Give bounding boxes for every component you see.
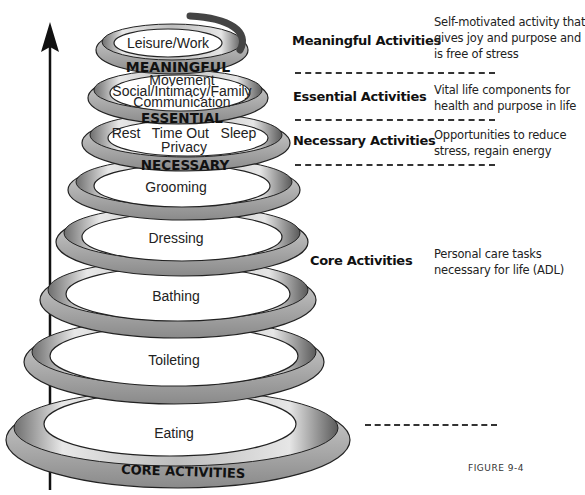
- legend-title-necessary: Necessary Activities: [293, 133, 435, 148]
- legend-desc-line: health and purpose in life: [434, 98, 576, 114]
- ring-label-eating: Eating: [154, 425, 194, 441]
- legend-title-essential: Essential Activities: [293, 89, 426, 104]
- ring-label-leisure-work: Leisure/Work: [127, 35, 210, 51]
- divider-dashes: [295, 164, 495, 166]
- legend-desc-line: is free of stress: [434, 46, 585, 62]
- legend-desc-necessary: Opportunities to reduce stress, regain e…: [434, 127, 566, 159]
- band-label-meaningful: MEANINGFUL: [126, 59, 230, 75]
- legend-desc-line: Opportunities to reduce: [434, 127, 566, 143]
- legend-title-core: Core Activities: [310, 253, 412, 268]
- ring-label-dressing: Dressing: [148, 230, 203, 246]
- band-label-essential: ESSENTIAL: [141, 110, 223, 126]
- divider-dashes: [365, 424, 497, 426]
- ring-label-privacy: Privacy: [161, 139, 207, 155]
- band-label-necessary: NECESSARY: [141, 157, 230, 173]
- legend-desc-line: gives joy and purpose and: [434, 30, 585, 46]
- legend-desc-core: Personal care tasks necessary for life (…: [434, 246, 564, 278]
- legend-title-meaningful: Meaningful Activities: [292, 33, 441, 48]
- ring-label-toileting: Toileting: [148, 352, 199, 368]
- ring-label-communication: Communication: [133, 94, 230, 110]
- ring-label-grooming: Grooming: [145, 179, 206, 195]
- ring-label-bathing: Bathing: [152, 288, 199, 304]
- divider-dashes: [295, 72, 495, 74]
- legend-desc-line: Personal care tasks: [434, 246, 564, 262]
- legend-desc-line: Self-motivated activity that: [434, 14, 585, 30]
- legend-desc-line: Vital life components for: [434, 82, 576, 98]
- figure-caption: FIGURE 9-4: [468, 463, 524, 473]
- legend-desc-essential: Vital life components for health and pur…: [434, 82, 576, 114]
- legend-desc-line: stress, regain energy: [434, 143, 566, 159]
- divider-dashes: [295, 119, 495, 121]
- legend-desc-line: necessary for life (ADL): [434, 262, 564, 278]
- legend-desc-meaningful: Self-motivated activity that gives joy a…: [434, 14, 585, 62]
